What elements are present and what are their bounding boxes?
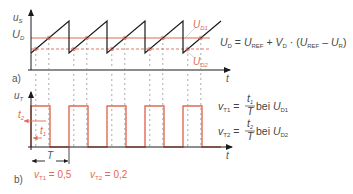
svg-text:vT1 =: vT1 = (218, 100, 239, 113)
svg-text:t1: t1 (247, 92, 253, 105)
svg-text:bei UD2: bei UD2 (256, 125, 289, 138)
duty-cycle-2: vT2 = 0,2 (90, 169, 128, 181)
duty-cycle-1: vT1 = 0,5 (34, 169, 72, 181)
ud-formula: UD = UREF + VD · (UREF – UR) (220, 36, 346, 49)
ud1-label: UD1 (193, 19, 208, 31)
svg-text:vT2 =: vT2 = (218, 125, 239, 138)
t2-label: t2 (18, 109, 25, 121)
ud-level-label: UD (12, 28, 25, 41)
panel-b: uT t t2 t1 T b) vT1 = 0,5 vT2 = 0,2 vT1 … (14, 90, 289, 185)
svg-text:T: T (247, 105, 255, 117)
time-label-a: t (226, 73, 230, 84)
pwm-diagram: uS UD t a) UD1 UD2 UD = UREF + VD · (URE… (0, 0, 353, 194)
us-axis-label: uS (13, 12, 23, 24)
duty-formula-2: vT2 = t2 T bei UD2 (218, 117, 289, 142)
panel-a-label: a) (12, 73, 21, 84)
duty-formula-1: vT1 = t1 T bei UD1 (218, 92, 289, 117)
ud2-label: UD2 (193, 56, 209, 68)
t1-label: t1 (40, 125, 46, 137)
panel-b-label: b) (14, 174, 23, 185)
ut-axis-label: uT (14, 90, 25, 102)
pwm-pulse-signal (31, 106, 221, 147)
svg-text:T: T (247, 130, 255, 142)
panel-a: uS UD t a) UD1 UD2 UD = UREF + VD · (URE… (12, 10, 346, 84)
svg-text:t2: t2 (247, 117, 253, 130)
period-label: T (47, 150, 54, 161)
svg-text:bei UD1: bei UD1 (256, 100, 289, 113)
time-label-b: t (226, 150, 230, 161)
crossing-guides (34, 36, 203, 146)
